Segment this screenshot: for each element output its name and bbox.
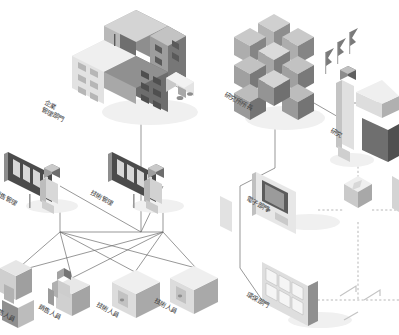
diamond-node-icon: [344, 176, 372, 208]
arrow-node-icon: [340, 286, 380, 320]
board-stand-tech: [133, 194, 135, 208]
board-stand-sales: [29, 194, 31, 208]
worker-station-2: [48, 268, 90, 316]
truck-icon: [166, 72, 194, 100]
rooftop-antenna: [114, 34, 115, 46]
diagram-canvas: 企業 管理部門 銷售管理 技術管理 銷售人員 銷售人員 技術人員 技術人員 研究…: [0, 0, 399, 335]
pillar-right-edge: [392, 176, 399, 212]
flag-icon: [325, 28, 358, 74]
pillar-left-edge: [220, 196, 232, 232]
office-building-icon: [72, 10, 186, 112]
shadow-research: [330, 153, 374, 167]
grid-panel-icon: [262, 262, 318, 326]
isometric-art-layer: [0, 0, 399, 335]
researcher-icon: [336, 66, 399, 162]
